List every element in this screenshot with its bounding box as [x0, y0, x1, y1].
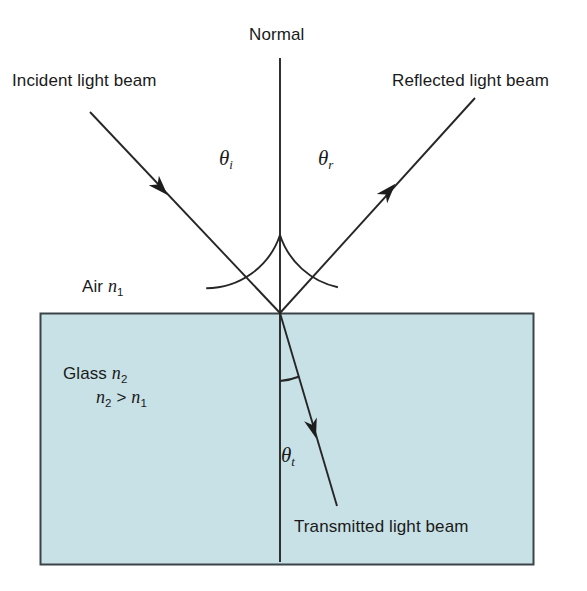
theta-symbol-reflection: θ — [318, 146, 328, 170]
reflected-ray — [280, 98, 475, 313]
angle-of-incidence-label: θi — [219, 146, 233, 173]
inequality-operator: > — [116, 388, 126, 407]
angle-of-incidence-arc — [206, 235, 280, 288]
theta-subscript-reflection: r — [328, 157, 333, 172]
angle-of-reflection-label: θr — [318, 146, 333, 173]
theta-subscript-transmission: t — [291, 454, 295, 469]
inequality-left-symbol: n — [96, 387, 105, 407]
angle-of-transmission-label: θt — [281, 443, 295, 470]
transmitted-beam-label: Transmitted light beam — [294, 518, 468, 536]
glass-refractive-index-subscript: 2 — [121, 373, 128, 385]
air-medium-name: Air — [82, 277, 103, 296]
theta-symbol-incidence: θ — [219, 146, 229, 170]
air-refractive-index-subscript: 1 — [117, 286, 124, 298]
air-medium-label: Air n1 — [82, 277, 124, 298]
glass-refractive-index-symbol: n — [112, 363, 121, 383]
normal-label: Normal — [249, 26, 304, 44]
glass-medium-name: Glass — [63, 364, 107, 383]
angle-of-reflection-arc — [280, 235, 338, 287]
inequality-right-subscript: 1 — [140, 397, 147, 409]
glass-medium-label: Glass n2 — [63, 364, 127, 385]
refractive-index-inequality: n2 > n1 — [96, 388, 147, 409]
theta-subscript-incidence: i — [229, 157, 233, 172]
incident-beam-label: Incident light beam — [12, 72, 157, 90]
optics-diagram: Normal Incident light beam Reflected lig… — [0, 0, 587, 591]
reflected-beam-label: Reflected light beam — [392, 72, 549, 90]
air-refractive-index-symbol: n — [108, 276, 117, 296]
theta-symbol-transmission: θ — [281, 443, 291, 467]
